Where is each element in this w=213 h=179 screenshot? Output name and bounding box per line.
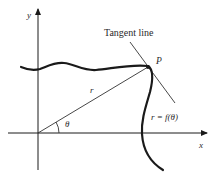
- radius-label: r: [90, 85, 94, 95]
- point-label: P: [155, 56, 162, 66]
- curve-label: r = f(θ): [151, 112, 178, 122]
- angle-label: θ: [65, 119, 70, 129]
- polar-curve: [21, 63, 163, 170]
- x-axis-label: x: [198, 140, 203, 150]
- tangent-label: Tangent line: [104, 27, 154, 38]
- polar-tangent-diagram: y x Tangent line P r θ r = f(θ): [0, 0, 213, 179]
- point-p-marker: [146, 65, 150, 69]
- radius-line: [38, 67, 148, 133]
- y-axis-label: y: [26, 10, 31, 20]
- angle-arc: [56, 122, 59, 133]
